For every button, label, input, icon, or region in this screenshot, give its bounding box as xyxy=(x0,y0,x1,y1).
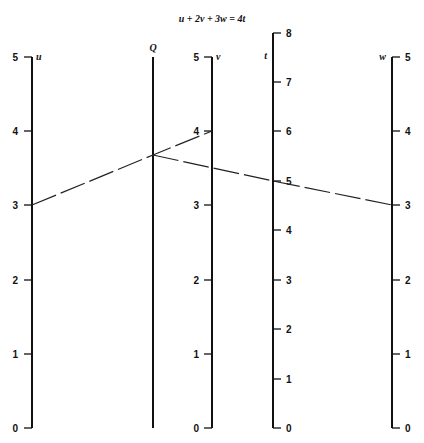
t-tick-3: 3 xyxy=(286,275,292,286)
w-axis-label: w xyxy=(379,51,386,62)
t-tick-1: 1 xyxy=(286,374,292,385)
w-tick-2: 2 xyxy=(405,275,411,286)
v-tick-0: 0 xyxy=(193,423,199,434)
t-tick-0: 0 xyxy=(286,423,292,434)
w-tick-4: 4 xyxy=(405,126,411,137)
v-tick-4: 4 xyxy=(193,126,199,137)
w-tick-3: 3 xyxy=(405,200,411,211)
t-tick-8: 8 xyxy=(286,28,292,39)
u-tick-5: 5 xyxy=(12,52,18,63)
q-axis: Q xyxy=(149,42,156,428)
v-axis: v 0 1 2 3 4 5 xyxy=(193,51,221,434)
t-tick-7: 7 xyxy=(286,77,292,88)
u-tick-3: 3 xyxy=(12,200,18,211)
equation-title: u + 2v + 3w = 4t xyxy=(179,13,247,24)
q-axis-label: Q xyxy=(149,42,156,53)
t-tick-4: 4 xyxy=(286,225,292,236)
v-axis-label: v xyxy=(216,51,221,62)
nomogram-diagram: u + 2v + 3w = 4t u 0 1 2 3 4 5 Q v 0 1 2… xyxy=(0,0,424,443)
v-tick-2: 2 xyxy=(193,275,199,286)
w-axis: w 0 1 2 3 4 5 xyxy=(379,51,411,434)
w-tick-1: 1 xyxy=(405,349,411,360)
t-tick-6: 6 xyxy=(286,126,292,137)
w-tick-5: 5 xyxy=(405,52,411,63)
u-tick-1: 1 xyxy=(12,349,18,360)
v-tick-5: 5 xyxy=(193,52,199,63)
u-tick-2: 2 xyxy=(12,275,18,286)
t-axis-label: t xyxy=(264,50,268,61)
t-axis: t 0 1 2 3 4 5 6 7 8 xyxy=(264,28,292,434)
t-tick-5: 5 xyxy=(286,176,292,187)
v-tick-3: 3 xyxy=(193,200,199,211)
u-tick-0: 0 xyxy=(12,423,18,434)
v-tick-1: 1 xyxy=(193,349,199,360)
u-tick-4: 4 xyxy=(12,126,18,137)
t-tick-2: 2 xyxy=(286,324,292,335)
u-axis-label: u xyxy=(36,51,42,62)
u-axis: u 0 1 2 3 4 5 xyxy=(12,51,42,434)
isopleth-u-q-v xyxy=(32,131,212,205)
w-tick-0: 0 xyxy=(405,423,411,434)
